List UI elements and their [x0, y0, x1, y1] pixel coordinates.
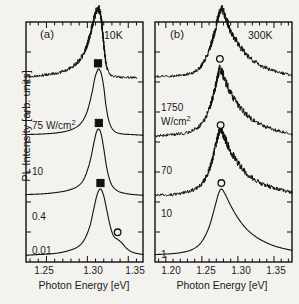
panel-b-xtick-2: 1.30 [231, 265, 250, 276]
panel-b-xtick-1: 1.25 [196, 265, 215, 276]
panel-b-plot [0, 0, 299, 304]
panel-b-curve-label-2: 10 [161, 208, 172, 219]
panel-b-curve-label-0: 1750 W/cm2 [161, 102, 191, 127]
panel-b-tag: (b) [170, 28, 184, 40]
panel-b-curve-label-1: 70 [161, 165, 172, 176]
peak-marker-open-circle [217, 122, 224, 129]
pl-spectra-figure: PL Intensity [arb. units] (a) 10K 75 W/c… [0, 0, 299, 304]
peak-marker-open-circle [218, 180, 225, 187]
panel-b-xlabel: Photon Energy [eV] [152, 279, 292, 291]
spectrum-curve [155, 5, 292, 78]
peak-marker-open-circle [217, 56, 224, 63]
panel-b-curve-label-3: 1 [161, 249, 167, 260]
spectrum-curve [155, 189, 292, 255]
panel-b-xtick-3: 1.35 [266, 265, 285, 276]
panel-b-temperature: 300K [248, 29, 273, 41]
panel-b-xtick-0: 1.20 [161, 265, 180, 276]
